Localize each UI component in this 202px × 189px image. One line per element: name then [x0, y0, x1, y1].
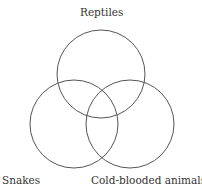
snakes-label: Snakes: [2, 174, 40, 186]
cold-blooded-label: Cold-blooded animals: [91, 174, 202, 186]
snakes-circle: [30, 80, 118, 168]
reptiles-label: Reptiles: [80, 6, 123, 18]
reptiles-circle: [57, 30, 145, 118]
venn-diagram: [0, 0, 202, 189]
cold-blooded-circle: [86, 80, 174, 168]
